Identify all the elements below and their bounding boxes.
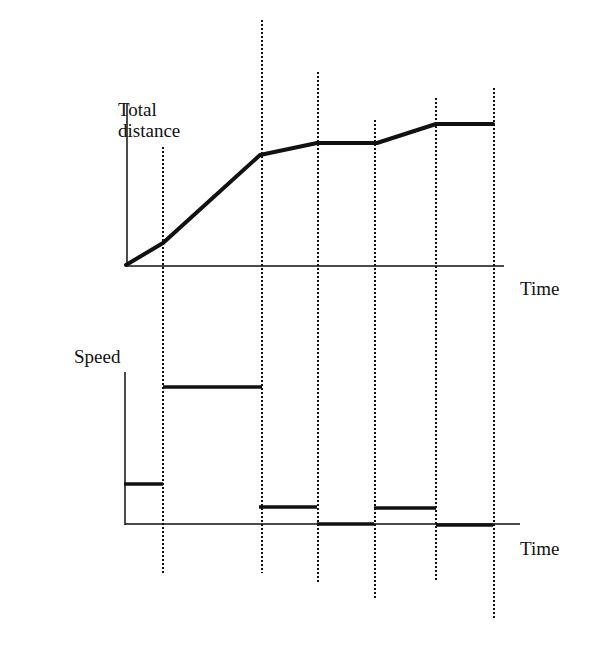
distance-line — [126, 124, 493, 265]
chart-canvas — [0, 0, 602, 660]
speed-time-axis-label: Time — [520, 538, 559, 559]
distance-axis-label-line1: Total — [118, 99, 157, 120]
distance-time-axis-label: Time — [520, 278, 559, 299]
distance-axis-label-line2: distance — [118, 120, 180, 141]
speed-axis-label: Speed — [74, 346, 120, 367]
